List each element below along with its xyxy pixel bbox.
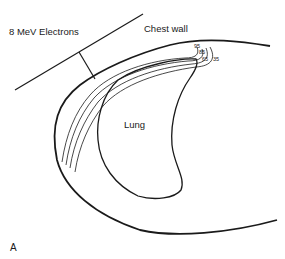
isodose-85 [66,49,203,165]
isodose-label-35: 35 [213,57,219,63]
isodose-lines [62,47,213,172]
isodose-35 [75,47,213,172]
lung-label: Lung [124,120,145,130]
beam-label: 8 MeV Electrons [9,27,79,37]
chest-wall-contour [55,40,277,234]
isodose-label-85: 85 [199,50,205,56]
beam-depth-tick [79,52,95,79]
isodose-label-65: 65 [202,57,208,63]
lung-contour [98,59,197,199]
panel-label: A [10,243,17,253]
chest-wall-label: Chest wall [144,24,188,34]
